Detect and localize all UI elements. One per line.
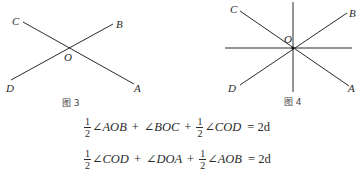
fig4-label-A: A	[347, 82, 355, 94]
eq2-term-2: ∠DOA	[146, 151, 182, 167]
center-point	[291, 46, 294, 49]
eq2-term-3: 1 2 ∠AOB	[199, 148, 242, 171]
fraction-denominator: 2	[200, 160, 205, 171]
plus-operator: +	[132, 120, 139, 135]
fig4-label-C: C	[230, 3, 238, 15]
fraction-denominator: 2	[85, 160, 90, 171]
figure-3: C B O D A 图 3	[5, 15, 141, 108]
angle-term: ∠AOB	[92, 119, 127, 135]
equation-2: 1 2 ∠COD + ∠DOA + 1 2 ∠AOB = 2d	[84, 144, 271, 174]
fig3-label-B: B	[116, 18, 123, 30]
fig4-label-O: O	[284, 33, 292, 45]
fraction-numerator: 1	[199, 148, 206, 160]
eq1-term-3: 1 2 ∠COD	[196, 116, 241, 139]
fig3-label-O: O	[64, 51, 72, 63]
equation-1: 1 2 ∠AOB + ∠BOC + 1 2 ∠COD = 2d	[84, 112, 270, 142]
fig3-label-C: C	[12, 15, 20, 27]
fraction-denominator: 2	[85, 128, 90, 139]
fig3-caption: 图 3	[62, 98, 80, 108]
fig4-label-D: D	[227, 82, 236, 94]
fraction-numerator: 1	[84, 116, 91, 128]
eq1-term-1: 1 2 ∠AOB	[84, 116, 127, 139]
plus-operator: +	[184, 120, 191, 135]
fraction-half: 1 2	[199, 148, 206, 171]
fig4-caption: 图 4	[284, 97, 302, 107]
equation-rhs: = 2d	[247, 120, 270, 135]
angle-term: ∠COD	[204, 119, 241, 135]
line-BD	[11, 24, 113, 80]
figure-4: C B O D A 图 4	[225, 2, 356, 107]
fig3-label-D: D	[5, 82, 14, 94]
eq2-term-1: 1 2 ∠COD	[84, 148, 129, 171]
fraction-half: 1 2	[84, 116, 91, 139]
angle-term: ∠COD	[92, 151, 129, 167]
line-CA	[23, 22, 134, 84]
equation-rhs: = 2d	[248, 152, 271, 167]
fraction-half: 1 2	[196, 116, 203, 139]
angle-term: ∠AOB	[207, 151, 242, 167]
fraction-numerator: 1	[84, 148, 91, 160]
plus-operator: +	[134, 152, 141, 167]
fraction-denominator: 2	[197, 128, 202, 139]
plus-operator: +	[187, 152, 194, 167]
fig4-label-B: B	[349, 7, 356, 19]
fig3-label-A: A	[133, 82, 141, 94]
angle-term: ∠DOA	[146, 151, 182, 167]
fraction-half: 1 2	[84, 148, 91, 171]
fraction-numerator: 1	[196, 116, 203, 128]
angle-term: ∠BOC	[144, 119, 179, 135]
eq1-term-2: ∠BOC	[144, 119, 179, 135]
